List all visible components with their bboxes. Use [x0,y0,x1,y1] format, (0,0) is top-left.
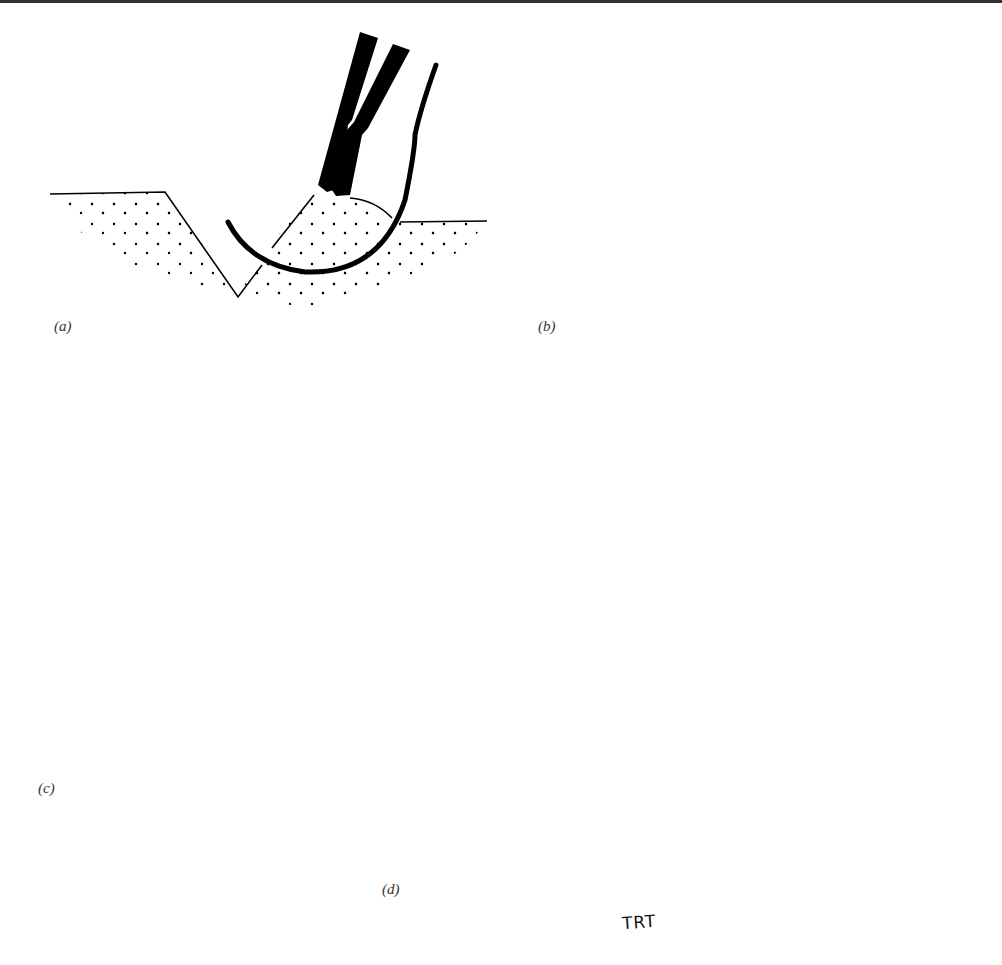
panel-label-b: (b) [538,318,556,335]
panel-label-d: (d) [382,881,400,898]
panel-label-c: (c) [38,780,55,797]
panel-a [50,32,487,310]
panel-label-a: (a) [54,318,72,335]
artist-signature: TRT [621,911,657,933]
suture-diagram [0,0,1002,965]
